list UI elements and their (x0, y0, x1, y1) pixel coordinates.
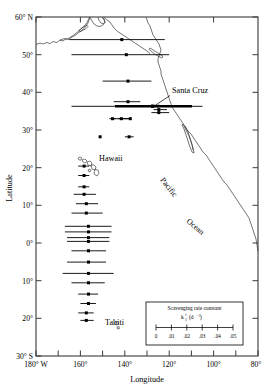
x-tick-label: 180° W (24, 360, 48, 369)
legend-tick-label: .01 (168, 333, 175, 339)
y-tick-label: 30° (22, 126, 33, 135)
legend-symbol-superscript: * (185, 314, 187, 318)
data-point (99, 135, 102, 138)
label-santa-cruz: Santa Cruz (172, 86, 209, 95)
x-tick-label: 140° (118, 360, 132, 369)
label-hawaii: Hawaii (99, 154, 123, 163)
legend-tick-label: .03 (199, 333, 206, 339)
legend-title: Scavenging rate constant (168, 305, 222, 311)
legend: Scavenging rate constant k 1 * (d −1 ) 0… (146, 302, 243, 345)
figure-root: 60° N 50° 40° 30° 20° 10° 0° 10° 20° 30°… (0, 0, 271, 389)
y-axis-title: Latitude (5, 174, 14, 202)
legend-units-open: (d (189, 314, 194, 321)
legend-tick-label: .02 (184, 333, 191, 339)
y-tick-label: 10° (22, 201, 33, 210)
y-tick-label: 20° (22, 164, 33, 173)
legend-tick-label: .05 (230, 333, 237, 339)
x-tick-label: 100° (206, 360, 220, 369)
legend-symbol-subscript: 1 (185, 318, 187, 322)
y-tick-label: 40° (22, 88, 33, 97)
x-axis-title: Longitude (130, 375, 164, 384)
label-tahiti: Tahiti (105, 318, 125, 327)
x-tick-labels: 180° W 160° 140° 120° 100° 80° (24, 360, 261, 369)
legend-symbol-k: k (181, 314, 184, 320)
x-tick-label: 80° (251, 360, 262, 369)
map-figure: 60° N 50° 40° 30° 20° 10° 0° 10° 20° 30°… (0, 0, 271, 389)
x-tick-label: 120° (162, 360, 176, 369)
y-tick-labels: 60° N 50° 40° 30° 20° 10° 0° 10° 20° 30°… (15, 13, 34, 361)
y-tick-label: 10° (22, 277, 33, 286)
y-tick-label: 20° (22, 314, 33, 323)
legend-units-close: ) (200, 314, 202, 321)
legend-tick-label: .04 (214, 333, 221, 339)
y-tick-label: 0° (26, 239, 33, 248)
y-tick-label: 50° (22, 51, 33, 60)
y-tick-label: 60° N (15, 13, 34, 22)
x-tick-label: 160° (73, 360, 87, 369)
legend-tick-label: 0 (155, 333, 158, 339)
